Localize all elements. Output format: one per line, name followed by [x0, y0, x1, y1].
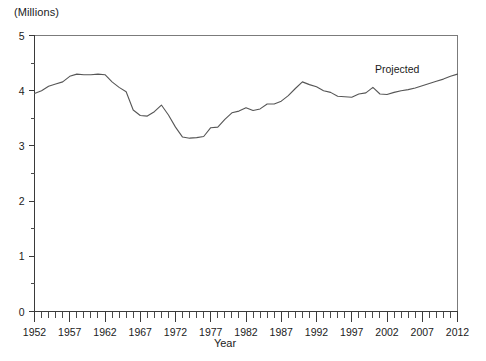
projected-annotation-label: Projected [375, 63, 419, 75]
svg-text:5: 5 [19, 30, 25, 42]
svg-text:4: 4 [19, 85, 25, 97]
svg-text:1977: 1977 [199, 326, 223, 338]
population-line-chart: (Millions) 012345 1952195719621967197219… [0, 0, 486, 361]
svg-text:1972: 1972 [164, 326, 188, 338]
svg-text:0: 0 [19, 306, 25, 318]
svg-text:2002: 2002 [375, 326, 399, 338]
svg-text:1: 1 [19, 250, 25, 262]
svg-text:3: 3 [19, 140, 25, 152]
svg-text:1957: 1957 [58, 326, 82, 338]
svg-text:1982: 1982 [234, 326, 258, 338]
x-axis-title-text: Year [214, 337, 236, 349]
svg-text:2007: 2007 [411, 326, 435, 338]
svg-text:2: 2 [19, 195, 25, 207]
svg-text:1962: 1962 [93, 326, 117, 338]
y-axis-ticks [29, 36, 35, 312]
svg-text:1997: 1997 [340, 326, 364, 338]
x-axis-ticks [35, 312, 458, 322]
chart-canvas: 012345 195219571962196719721977198219871… [0, 0, 486, 361]
svg-text:1992: 1992 [305, 326, 329, 338]
x-axis-title: Year [0, 337, 486, 349]
plot-frame [35, 36, 458, 312]
y-axis-tick-labels: 012345 [19, 30, 25, 318]
svg-text:2012: 2012 [446, 326, 470, 338]
x-axis-tick-labels: 1952195719621967197219771982198719921997… [23, 326, 470, 338]
svg-text:1987: 1987 [270, 326, 294, 338]
svg-text:1967: 1967 [129, 326, 153, 338]
data-series-group [35, 74, 458, 138]
svg-text:1952: 1952 [23, 326, 47, 338]
series-path [35, 74, 458, 138]
y-axis-unit-label: (Millions) [14, 6, 59, 18]
